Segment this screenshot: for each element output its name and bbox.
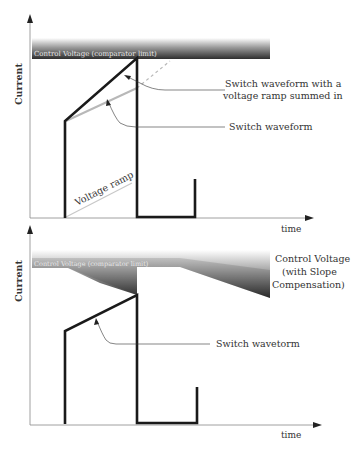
annotation-summed-line1: Switch waveform with a — [225, 78, 342, 89]
leader-summed-arrow-icon — [124, 75, 131, 80]
control-band-label: Control Voltage (comparator limit) — [34, 50, 157, 58]
x-axis-arrow-icon — [305, 215, 314, 221]
y-axis-label: Current — [13, 63, 24, 105]
annotation-switch: Switch waveform — [229, 121, 313, 132]
x-axis-label: time — [281, 430, 301, 440]
annotation-summed-line2: voltage ramp summed in — [222, 90, 343, 101]
control-band-label: Control Voltage (comparator limit) — [34, 260, 149, 268]
annotation-switch: Switch wavetorm — [216, 338, 300, 349]
bottom-chart: Control Voltage (comparator limit) Contr… — [13, 225, 351, 440]
leader-switch — [97, 321, 210, 344]
switch-waveform-gray — [66, 88, 137, 121]
leader-switch — [108, 101, 225, 127]
annotation-control-line1: Control Voltage — [275, 253, 351, 264]
x-axis-label: time — [281, 224, 301, 234]
y-axis-arrow-icon — [27, 14, 33, 23]
slope-compensation-diagram: Control Voltage (comparator limit) Volta… — [0, 0, 353, 452]
y-axis-arrow-icon — [27, 225, 33, 234]
annotation-control-line3: Compensation) — [272, 279, 345, 290]
leader-switch-arrow-icon — [94, 318, 99, 325]
y-axis-label: Current — [13, 260, 24, 302]
annotation-control-line2: (with Slope — [282, 266, 337, 277]
switch-waveform — [65, 295, 197, 424]
x-axis-arrow-icon — [313, 422, 322, 428]
top-chart: Control Voltage (comparator limit) Volta… — [13, 14, 343, 234]
control-band-label-text: Control Voltage (comparator limit) — [34, 260, 149, 268]
voltage-ramp-label: Voltage ramp — [72, 169, 135, 208]
leader-summed — [126, 76, 225, 90]
